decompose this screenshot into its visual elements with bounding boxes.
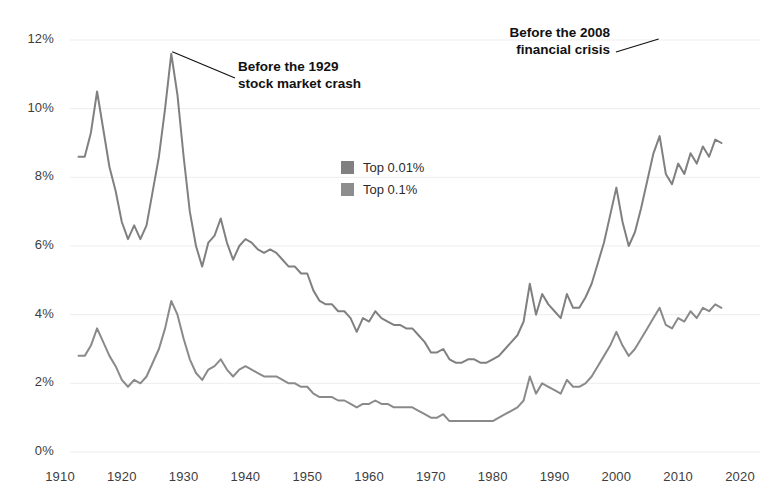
y-tick-8pct: 8% [8, 168, 54, 183]
leader-line-2008 [616, 39, 659, 52]
legend-item-top-01[interactable]: Top 0.1% [341, 178, 424, 200]
y-tick-6pct: 6% [8, 237, 54, 252]
x-tick-1970: 1970 [403, 469, 459, 484]
x-tick-1940: 1940 [217, 469, 273, 484]
x-tick-1980: 1980 [465, 469, 521, 484]
chart-legend: Top 0.01% Top 0.1% [341, 156, 424, 200]
y-tick-0pct: 0% [8, 443, 54, 458]
x-tick-2000: 2000 [588, 469, 644, 484]
series-line-top-01 [79, 301, 722, 421]
x-tick-1930: 1930 [156, 469, 212, 484]
x-tick-2020: 2020 [712, 469, 768, 484]
legend-item-top-001[interactable]: Top 0.01% [341, 156, 424, 178]
chart-plot-area [0, 0, 768, 503]
x-tick-2010: 2010 [650, 469, 706, 484]
series-line-top-001 [79, 54, 722, 363]
leader-line-1929 [172, 52, 235, 78]
x-tick-1960: 1960 [341, 469, 397, 484]
gridlines [70, 40, 760, 452]
annotation-1929-crash: Before the 1929 stock market crash [238, 58, 361, 93]
y-tick-4pct: 4% [8, 306, 54, 321]
x-tick-1910: 1910 [32, 469, 88, 484]
x-tick-1920: 1920 [94, 469, 150, 484]
x-tick-1950: 1950 [279, 469, 335, 484]
y-tick-10pct: 10% [8, 100, 54, 115]
y-tick-12pct: 12% [8, 31, 54, 46]
legend-swatch-top-01 [341, 183, 354, 196]
legend-label-top-001: Top 0.01% [363, 160, 424, 175]
wealth-share-line-chart: 0%2%4%6%8%10%12% 19101920193019401950196… [0, 0, 768, 503]
y-tick-2pct: 2% [8, 374, 54, 389]
legend-label-top-01: Top 0.1% [363, 182, 417, 197]
legend-swatch-top-001 [341, 161, 354, 174]
x-tick-1990: 1990 [527, 469, 583, 484]
annotation-2008-crisis: Before the 2008 financial crisis [462, 24, 610, 59]
